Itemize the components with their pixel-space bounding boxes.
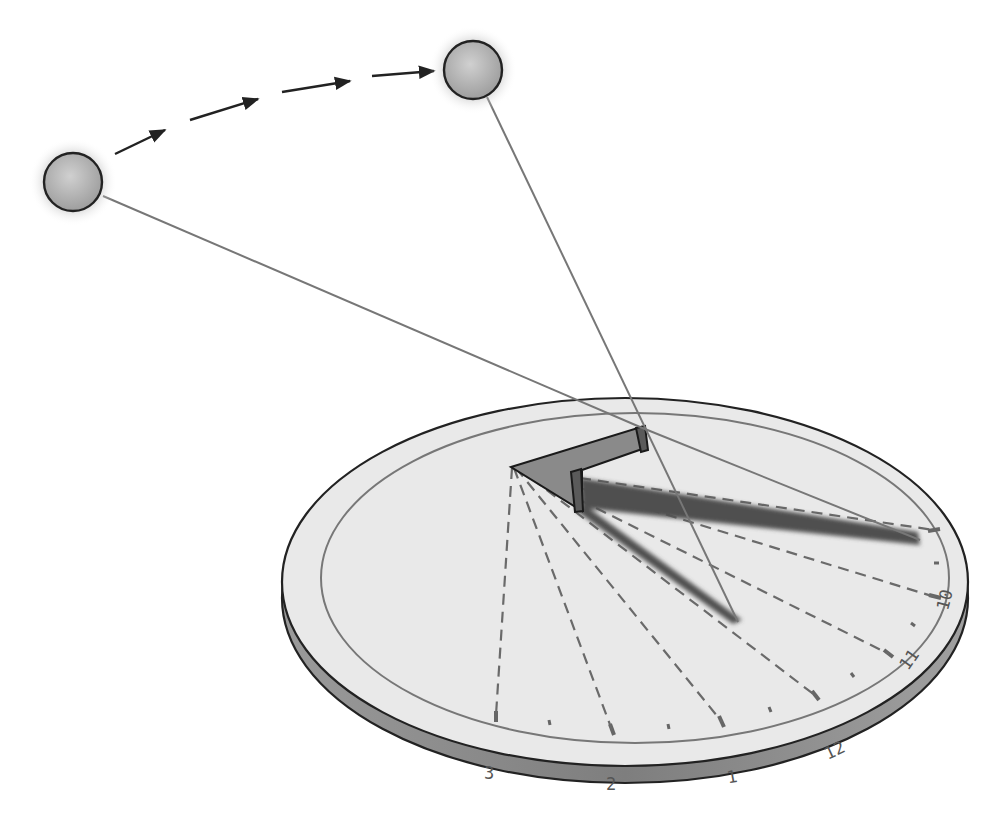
hour-label-3: 3 <box>484 763 494 783</box>
hour-label-2: 2 <box>606 774 616 794</box>
sun-later-icon <box>429 26 517 114</box>
sun-earlier-icon <box>29 138 117 226</box>
sundial-diagram: 3 2 1 12 11 10 <box>0 0 995 817</box>
sun-path-arrows <box>115 71 434 154</box>
